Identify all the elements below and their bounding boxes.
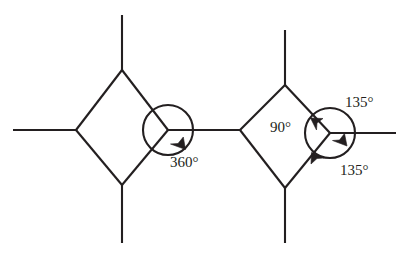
geometry-figure: 360° 90° 135° 135°: [0, 0, 410, 262]
angle-label-360: 360°: [170, 154, 199, 170]
right-hub-annotation: 90° 135° 135°: [270, 94, 374, 178]
left-diamond: [76, 70, 168, 185]
angle-label-135-bottom: 135°: [340, 162, 369, 178]
outer-stems: [13, 15, 396, 243]
angle-label-135-top: 135°: [345, 94, 374, 110]
right-diamond: [240, 85, 330, 188]
left-diamond-edge-top-left: [76, 70, 122, 130]
right-diamond-edge-bottom-left: [240, 130, 285, 188]
angle-label-90: 90°: [270, 119, 291, 135]
figure-canvas: 360° 90° 135° 135°: [0, 0, 410, 262]
left-hub-annotation: 360°: [143, 105, 199, 170]
arrowhead-right-icon: [333, 134, 348, 147]
left-diamond-edge-bottom-left: [76, 130, 122, 185]
full-turn-arrowhead-icon: [171, 137, 186, 150]
